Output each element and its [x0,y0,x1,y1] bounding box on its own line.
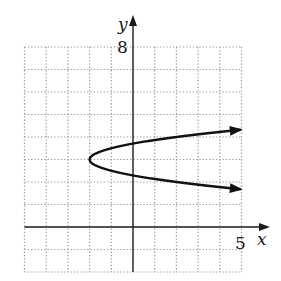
x-tick-label-5: 5 [235,233,246,253]
graph: y 8 5 x [0,0,281,281]
parabola-curve [90,130,241,189]
x-axis-label: x [257,229,267,249]
y-tick-label-8: 8 [117,37,128,57]
y-axis-arrow-icon [129,15,137,26]
axes [25,15,271,272]
y-axis-label: y [117,14,128,34]
